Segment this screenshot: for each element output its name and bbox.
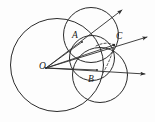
point-a bbox=[81, 41, 83, 43]
ray-middle bbox=[46, 37, 147, 68]
figure-canvas bbox=[0, 0, 155, 122]
point-label-b: B bbox=[88, 75, 94, 85]
circles-group bbox=[11, 8, 128, 112]
point-label-c: C bbox=[116, 32, 122, 42]
point-label-o: O bbox=[39, 62, 46, 72]
lower-circle bbox=[73, 48, 128, 103]
point-c bbox=[113, 44, 115, 46]
rays-group bbox=[46, 10, 147, 74]
ray-lower bbox=[46, 68, 145, 74]
point-label-a: A bbox=[72, 31, 78, 41]
geometry-figure: O A B C bbox=[0, 0, 155, 122]
point-b bbox=[96, 69, 98, 71]
